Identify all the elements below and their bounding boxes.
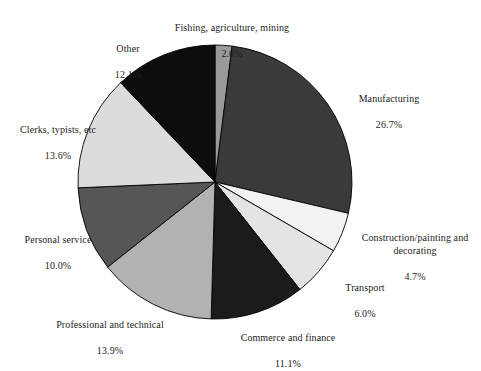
pie-label-name: Construction/painting and decorating [350, 231, 480, 257]
pie-label-value: 10.0% [2, 259, 114, 272]
pie-label-name: Clerks, typists, etc [2, 123, 114, 136]
pie-label-value: 13.9% [30, 344, 190, 357]
pie-label-construction-painting-decorating: Construction/painting and decorating 4.7… [350, 218, 480, 296]
pie-label-value: 26.7% [325, 118, 453, 131]
pie-label-personal-service: Personal service 10.0% [2, 220, 114, 285]
pie-label-clerks-typists-etc: Clerks, typists, etc 13.6% [2, 110, 114, 175]
pie-label-value: 11.1% [218, 357, 358, 370]
pie-label-name: Personal service [2, 233, 114, 246]
pie-label-name: Other [78, 42, 178, 55]
pie-label-value: 4.7% [350, 270, 480, 283]
pie-label-name: Manufacturing [325, 92, 453, 105]
pie-label-value: 12.1% [78, 68, 178, 81]
pie-label-manufacturing: Manufacturing 26.7% [325, 79, 453, 144]
pie-label-other: Other 12.1% [78, 29, 178, 94]
pie-label-name: Professional and technical [30, 318, 190, 331]
pie-label-value: 13.6% [2, 149, 114, 162]
pie-label-professional-and-technical: Professional and technical 13.9% [30, 305, 190, 370]
pie-label-value: 6.0% [315, 307, 415, 320]
